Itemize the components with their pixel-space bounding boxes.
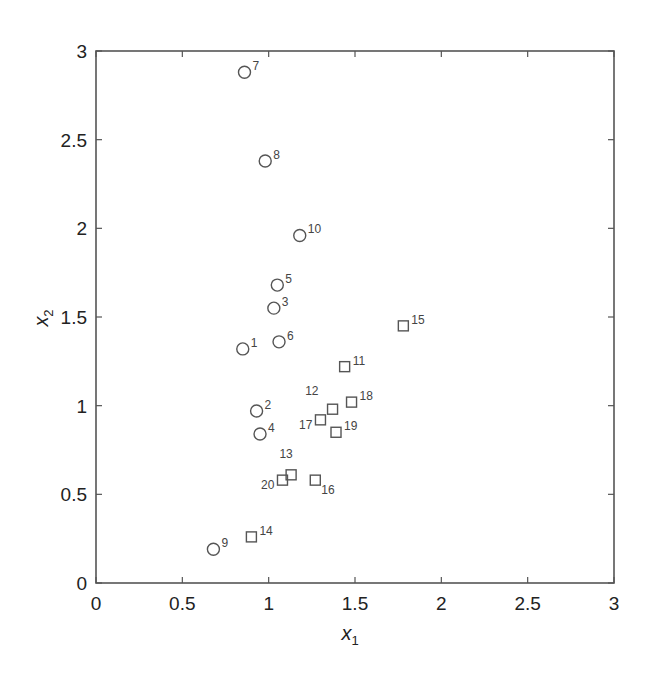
point-label: 9 [221,536,228,550]
point-label: 2 [265,398,272,412]
circle-point [237,343,249,355]
point-label: 20 [261,478,275,492]
scatter-chart: 00.511.522.53 00.511.522.53 123456789101… [0,0,651,676]
x-axis-label: x1 [340,622,358,648]
y-axis: 00.511.522.53 [61,41,614,594]
x-tick-label: 2.5 [514,593,540,614]
point-label: 1 [251,336,258,350]
circle-point [251,405,263,417]
x-tick-label: 1.5 [342,593,368,614]
y-tick-label: 1.5 [61,307,87,328]
point-label: 14 [259,524,273,538]
point-label: 3 [282,295,289,309]
point-label: 13 [279,447,293,461]
square-point [340,362,350,372]
y-tick-label: 1 [76,396,87,417]
x-tick-label: 0.5 [169,593,195,614]
square-point [328,404,338,414]
y-tick-label: 3 [76,41,87,62]
data-points: 1234567891011121314151617181920 [207,59,425,555]
square-point [347,397,357,407]
point-label: 5 [285,272,292,286]
point-label: 6 [287,329,294,343]
circle-point [268,302,280,314]
point-label: 8 [273,148,280,162]
point-label: 18 [360,389,374,403]
point-label: 19 [344,419,358,433]
x-tick-label: 0 [91,593,102,614]
x-tick-label: 2 [436,593,447,614]
circle-point [273,336,285,348]
square-point [398,321,408,331]
point-label: 17 [299,418,313,432]
point-label: 15 [411,313,425,327]
point-label: 11 [353,354,366,368]
square-point [246,532,256,542]
point-label: 7 [252,59,259,73]
y-tick-label: 0.5 [61,484,87,505]
square-point [315,415,325,425]
y-axis-label-sub: 2 [41,309,56,316]
point-label: 4 [268,421,275,435]
x-axis: 00.511.522.53 [91,51,620,614]
square-point [310,475,320,485]
circle-point [259,155,271,167]
x-tick-label: 1 [263,593,274,614]
point-label: 12 [305,384,319,398]
circle-point [294,229,306,241]
square-point [331,427,341,437]
x-axis-label-sub: 1 [351,633,358,648]
circle-point [238,66,250,78]
y-axis-label: x2 [30,309,56,327]
y-tick-label: 2 [76,218,87,239]
circle-point [271,279,283,291]
plot-frame [96,51,614,583]
x-tick-label: 3 [609,593,620,614]
point-label: 16 [321,483,335,497]
point-label: 10 [308,222,322,236]
circle-point [254,428,266,440]
y-tick-label: 2.5 [61,130,87,151]
circle-point [207,543,219,555]
y-tick-label: 0 [76,573,87,594]
